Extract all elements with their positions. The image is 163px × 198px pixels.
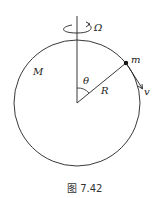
- radius-label: R: [100, 85, 109, 96]
- mass-big-label: M: [32, 66, 44, 77]
- angle-arc: [77, 88, 89, 93]
- theta-label: θ: [83, 75, 89, 86]
- small-mass-label: m: [131, 54, 140, 65]
- velocity-arrow-icon: [126, 63, 143, 89]
- diagram-canvas: Ω M θ R m v 图 7.42: [0, 0, 163, 198]
- omega-label: Ω: [93, 22, 102, 33]
- velocity-label: v: [144, 86, 150, 97]
- figure-caption: 图 7.42: [67, 183, 102, 194]
